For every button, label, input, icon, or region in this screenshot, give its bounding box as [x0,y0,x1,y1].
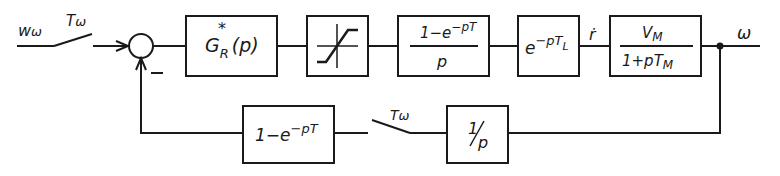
zoh-numerator: 1−e−pT [420,20,478,42]
output-label: ω [737,23,751,43]
feedback-switch-label: Tω [390,107,410,123]
input-label: wω [18,21,42,40]
controller-star: * [218,19,226,38]
input-switch [54,34,92,46]
junction-dot [717,43,724,50]
input-switch-label: Tω [66,12,86,30]
block-diagram: wω Tω GR(p) * 1−e−pT p e−pTL ṙ VM 1+pTM … [0,0,780,176]
feedback-return-line [141,58,243,133]
controller-label: GR(p) [205,34,259,61]
hold-label: 1−e−pT [255,121,319,145]
motor-denominator: 1+pTM [622,52,674,72]
signal-r-dot: ṙ [589,25,597,44]
delay-label: e−pTL [525,33,569,58]
motor-numerator: VM [642,24,663,44]
feedback-line [508,46,720,133]
zoh-denominator: p [436,52,447,71]
integrator-den: p [477,133,488,152]
summing-junction [129,34,153,58]
